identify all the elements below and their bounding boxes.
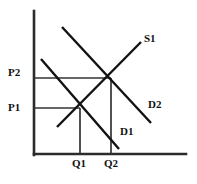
quantity-label-q2: Q2 xyxy=(104,158,118,169)
supply-curve-label: S1 xyxy=(144,33,156,44)
diagram-canvas xyxy=(0,0,197,184)
supply-curve-s1 xyxy=(57,42,141,127)
demand-curve-d1-label: D1 xyxy=(120,126,133,137)
quantity-label-q1: Q1 xyxy=(72,158,86,169)
price-label-p1: P1 xyxy=(8,102,20,113)
supply-demand-diagram: S1 D1 D2 P1 P2 Q1 Q2 xyxy=(0,0,197,184)
price-label-p2: P2 xyxy=(8,67,20,78)
demand-curve-d2-label: D2 xyxy=(148,99,161,110)
